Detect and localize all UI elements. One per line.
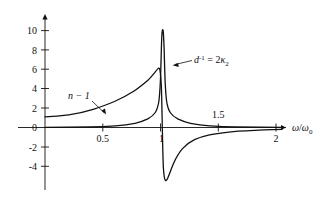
y-tick-label-2: 2 bbox=[32, 103, 37, 114]
x-tick-label-1-5: 1.5 bbox=[212, 109, 225, 120]
y-tick-label-neg4: -4 bbox=[29, 161, 37, 172]
y-tick-label-0: 0 bbox=[32, 122, 37, 133]
kappa-subscript: 2 bbox=[225, 60, 229, 68]
dispersion-label-text: n − 1 bbox=[68, 90, 90, 101]
y-tick-label-6: 6 bbox=[32, 64, 37, 75]
chart-background bbox=[0, 0, 320, 197]
y-tick-label-neg2: -2 bbox=[29, 142, 37, 153]
omega-subscript: 0 bbox=[309, 128, 313, 136]
y-tick-label-10: 10 bbox=[27, 25, 37, 36]
absorption-label-equals: = 2 bbox=[205, 54, 221, 65]
x-tick-label-0-5: 0.5 bbox=[97, 133, 110, 144]
omega-symbol-2: ω bbox=[302, 122, 309, 133]
y-tick-label-8: 8 bbox=[32, 45, 37, 56]
y-tick-label-4: 4 bbox=[32, 83, 37, 94]
x-tick-label-2: 2 bbox=[274, 133, 279, 144]
resonance-dispersion-absorption-chart: 10 8 6 4 2 0 -2 -4 0.5 1 1.5 2 ω/ω0 d-1 … bbox=[0, 0, 320, 197]
omega-symbol-1: ω bbox=[292, 122, 299, 133]
